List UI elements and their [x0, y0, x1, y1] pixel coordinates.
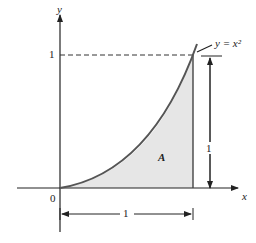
width-dimension-label: 1	[123, 208, 129, 219]
diagram: y x 0 1 y = x² A 1 1	[0, 0, 256, 243]
curve-label-leader	[197, 45, 212, 52]
height-dimension-label: 1	[206, 143, 212, 154]
y-axis-label: y	[57, 4, 62, 15]
area-label: A	[158, 152, 165, 163]
shaded-area	[60, 55, 193, 188]
curve-label: y = x²	[215, 38, 241, 49]
x-axis-label: x	[242, 191, 247, 202]
y-tick-label: 1	[49, 49, 55, 60]
origin-label: 0	[50, 193, 56, 204]
